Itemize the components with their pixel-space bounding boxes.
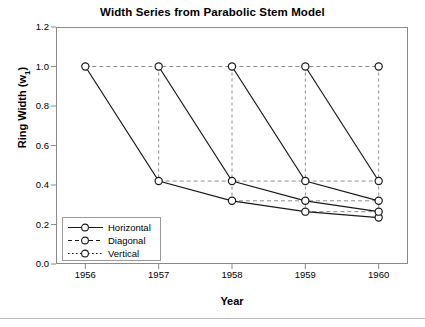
legend-label-horizontal: Horizontal [108, 221, 151, 234]
y-tick-label: 0.6 [9, 140, 49, 151]
data-point-marker[interactable] [228, 63, 235, 70]
y-tick-label: 1.0 [9, 61, 49, 72]
legend-item-vertical[interactable]: Vertical [63, 247, 160, 260]
data-point-marker[interactable] [82, 63, 89, 70]
chart-root: Width Series from Parabolic Stem Model R… [0, 0, 425, 327]
legend-swatch-horizontal [67, 221, 107, 234]
legend-item-horizontal[interactable]: Horizontal [63, 221, 160, 234]
legend: Horizontal Diagonal Vertical [62, 217, 161, 261]
y-tick-label: 1.2 [9, 21, 49, 32]
data-point-marker[interactable] [302, 197, 309, 204]
legend-label-vertical: Vertical [108, 247, 139, 260]
data-point-marker[interactable] [228, 197, 235, 204]
y-axis-label-text: Ring Width (w [16, 75, 28, 148]
data-point-marker[interactable] [302, 208, 309, 215]
data-point-marker[interactable] [302, 63, 309, 70]
y-tick-label: 0.2 [9, 219, 49, 230]
legend-swatch-vertical [67, 247, 107, 260]
x-tick-label: 1956 [55, 269, 115, 280]
x-axis-label: Year [56, 295, 408, 307]
x-tick-label: 1959 [275, 269, 335, 280]
data-point-marker[interactable] [228, 177, 235, 184]
legend-item-diagonal[interactable]: Diagonal [63, 234, 160, 247]
data-point-marker[interactable] [375, 177, 382, 184]
data-point-marker[interactable] [155, 177, 162, 184]
x-tick-label: 1958 [202, 269, 262, 280]
y-tick-label: 0.0 [9, 258, 49, 269]
data-point-marker[interactable] [375, 197, 382, 204]
cohort-line [305, 67, 378, 182]
data-point-marker[interactable] [302, 177, 309, 184]
x-tick-label: 1957 [129, 269, 189, 280]
data-point-marker[interactable] [375, 63, 382, 70]
y-tick-label: 0.8 [9, 100, 49, 111]
legend-swatch-diagonal [67, 234, 107, 247]
x-tick-label: 1960 [349, 269, 409, 280]
data-point-marker[interactable] [155, 63, 162, 70]
data-point-marker[interactable] [375, 208, 382, 215]
y-tick-label: 0.4 [9, 179, 49, 190]
legend-label-diagonal: Diagonal [108, 234, 146, 247]
footer-divider [0, 318, 425, 319]
